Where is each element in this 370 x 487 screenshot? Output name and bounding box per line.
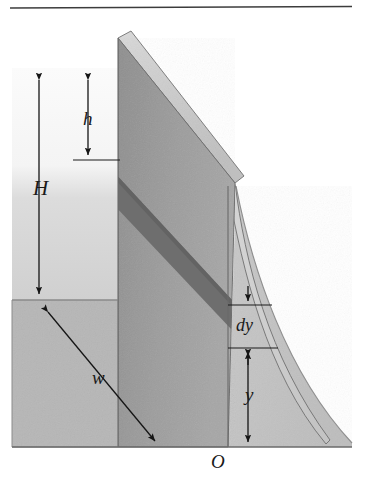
label-y: y	[245, 385, 253, 404]
label-dy: dy	[236, 316, 253, 334]
label-h: h	[83, 109, 93, 128]
label-origin-O: O	[211, 452, 225, 471]
water-body	[12, 68, 118, 300]
label-H: H	[33, 178, 48, 199]
label-w: w	[92, 368, 105, 387]
top-rule	[10, 7, 352, 9]
dam-pressure-figure: H h w dy y O	[0, 0, 370, 487]
figure-canvas	[0, 0, 370, 487]
